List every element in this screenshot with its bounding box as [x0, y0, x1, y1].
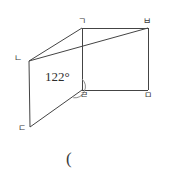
vertex-label-m: ㅁ — [144, 91, 152, 100]
vertex-label-b: ㅂ — [143, 17, 151, 26]
caption-paren: ( — [66, 150, 72, 167]
edge-n-d — [29, 61, 30, 127]
angle-measure-label: 122° — [45, 70, 70, 83]
vertex-label-g: ㄱ — [78, 17, 86, 26]
vertex-label-n: ㄴ — [14, 54, 22, 63]
diagonal-n-b — [29, 28, 148, 61]
geometry-canvas — [0, 0, 172, 174]
edge-d-r — [30, 90, 82, 127]
geometry-figure: ㄱ ㅂ ㄴ ㄷ ㄹ ㅁ 122° ( — [0, 0, 172, 174]
vertex-label-r: ㄹ — [80, 91, 88, 100]
edge-n-g — [29, 28, 82, 61]
vertex-label-d: ㄷ — [18, 124, 26, 133]
